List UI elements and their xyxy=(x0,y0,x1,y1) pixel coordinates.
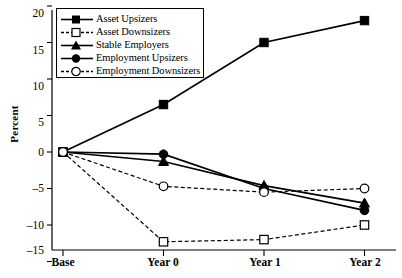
data-point xyxy=(360,221,368,229)
y-tick-marks xyxy=(47,6,52,262)
legend-item-asset-downsizers: Asset Downsizers xyxy=(60,25,201,38)
data-point xyxy=(159,100,167,108)
legend-key-open-square-icon xyxy=(60,25,94,38)
data-point xyxy=(260,235,268,243)
legend-label-asset-upsizers: Asset Upsizers xyxy=(96,12,157,25)
legend-key-filled-square-icon xyxy=(60,12,94,25)
legend-item-stable-employers: Stable Employers xyxy=(60,38,201,51)
data-point xyxy=(360,206,369,215)
legend-key-filled-triangle-icon xyxy=(60,38,94,51)
legend-item-employment-downsizers: Employment Downsizers xyxy=(60,64,201,77)
legend-label-employment-downsizers: Employment Downsizers xyxy=(96,64,200,77)
data-point xyxy=(159,150,168,159)
legend-item-employment-upsizers: Employment Upsizers xyxy=(60,51,201,64)
data-point xyxy=(260,188,269,197)
x-tick-label-year1: Year 1 xyxy=(235,256,295,268)
data-point xyxy=(260,38,268,46)
x-tick-label-year2: Year 2 xyxy=(335,256,395,268)
series-asset-downsizers xyxy=(59,148,369,246)
data-point xyxy=(159,182,168,191)
chart-legend: Asset Upsizers Asset Downsizers Stable E… xyxy=(56,8,204,78)
chart-figure: Percent 20 15 10 5 0 –5 –10 –15 Base Yea… xyxy=(0,0,402,278)
legend-label-stable-employers: Stable Employers xyxy=(96,38,169,51)
data-point xyxy=(360,184,369,193)
x-tick-label-base: Base xyxy=(33,256,93,268)
data-point xyxy=(59,148,68,157)
series-employment-upsizers xyxy=(59,148,369,215)
x-tick-marks xyxy=(63,250,365,256)
series-stable-employers xyxy=(58,147,370,207)
legend-key-filled-circle-icon xyxy=(60,51,94,64)
data-point xyxy=(159,238,167,246)
legend-item-asset-upsizers: Asset Upsizers xyxy=(60,12,201,25)
x-tick-label-year0: Year 0 xyxy=(133,256,193,268)
data-point xyxy=(360,16,368,24)
legend-label-asset-downsizers: Asset Downsizers xyxy=(96,25,170,38)
legend-key-open-circle-icon xyxy=(60,64,94,77)
legend-label-employment-upsizers: Employment Upsizers xyxy=(96,51,188,64)
